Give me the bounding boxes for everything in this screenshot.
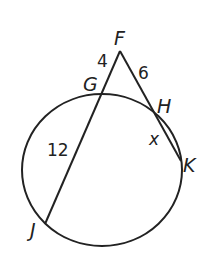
- point-label-g: G: [83, 73, 98, 95]
- measure-gj: 12: [47, 140, 69, 160]
- point-label-f: F: [114, 27, 126, 49]
- point-label-h: H: [157, 95, 171, 117]
- secant-diagram: F G H K J 4 6 12 x: [0, 0, 207, 254]
- measure-fg: 4: [97, 51, 108, 71]
- point-label-k: K: [183, 154, 197, 176]
- point-label-j: J: [26, 219, 36, 241]
- measure-hk: x: [148, 129, 160, 149]
- measure-fh: 6: [138, 63, 149, 83]
